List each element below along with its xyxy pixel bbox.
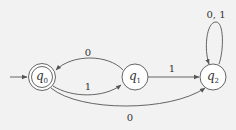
state-q1: q1 — [122, 64, 148, 90]
edge-label-q1-q2: 1 — [169, 63, 175, 74]
edge-label-q1-q0: 0 — [85, 47, 91, 58]
edge-q1-q0 — [56, 58, 123, 70]
edge-label-q0-q1: 1 — [85, 81, 91, 92]
edge-q2-q2-loop — [206, 22, 222, 64]
edge-label-q2-q2: 0, 1 — [206, 9, 225, 20]
automaton-diagram: 0 1 1 0 0, 1 q0 q1 q2 — [0, 0, 236, 130]
edge-q0-q2 — [51, 88, 205, 106]
state-q0: q0 — [29, 64, 56, 91]
edge-label-q0-q2: 0 — [127, 112, 133, 123]
state-q2: q2 — [200, 64, 226, 90]
